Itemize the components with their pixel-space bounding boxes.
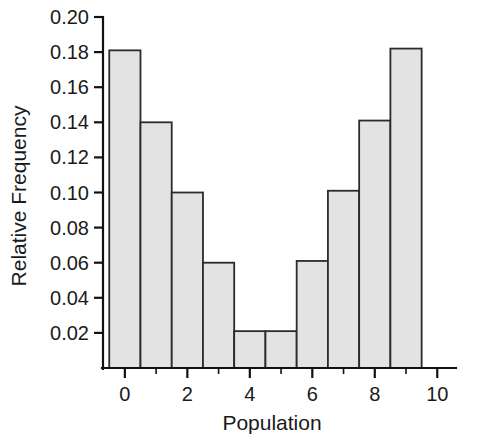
- bar: [203, 263, 234, 368]
- y-tick-label: 0.18: [50, 41, 89, 63]
- x-tick-label: 2: [182, 383, 193, 405]
- bar: [265, 331, 296, 368]
- y-tick-label: 0.12: [50, 146, 89, 168]
- y-tick-label: 0.08: [50, 217, 89, 239]
- bar: [172, 193, 203, 369]
- chart-canvas: 0.020.040.060.080.100.120.140.160.180.20…: [0, 0, 489, 442]
- x-tick-label: 6: [307, 383, 318, 405]
- histogram-figure: 0.020.040.060.080.100.120.140.160.180.20…: [0, 0, 489, 442]
- y-tick-label: 0.20: [50, 6, 89, 28]
- y-tick-label: 0.10: [50, 182, 89, 204]
- y-tick-label: 0.14: [50, 111, 89, 133]
- bar: [297, 261, 328, 368]
- x-axis-title: Population: [222, 411, 321, 434]
- y-tick-label: 0.04: [50, 287, 89, 309]
- y-tick-label: 0.16: [50, 76, 89, 98]
- y-axis-title: Relative Frequency: [7, 105, 30, 286]
- y-tick-label: 0.02: [50, 322, 89, 344]
- x-tick-label: 8: [369, 383, 380, 405]
- x-tick-label: 10: [426, 383, 448, 405]
- x-tick-label: 4: [244, 383, 255, 405]
- bar: [390, 49, 421, 368]
- bar: [359, 121, 390, 368]
- x-tick-label: 0: [119, 383, 130, 405]
- bar: [109, 50, 140, 368]
- bar: [234, 331, 265, 368]
- y-tick-label: 0.06: [50, 252, 89, 274]
- bar: [140, 122, 171, 368]
- bar: [328, 191, 359, 368]
